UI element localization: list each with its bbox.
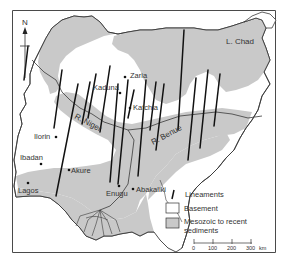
city-kaduna: Kaduna <box>93 83 120 92</box>
scale-bar: 0 100 200 300 km <box>192 239 267 251</box>
legend-sediments-label-1: Mesozoic to recent <box>184 217 248 226</box>
scale-unit: km <box>259 245 267 251</box>
scale-tick-100: 100 <box>208 245 217 251</box>
legend-sediments-swatch <box>166 218 179 228</box>
legend-lineaments-label: Lineaments <box>185 190 224 199</box>
scale-tick-0: 0 <box>192 245 195 251</box>
legend-basement-label: Basement <box>184 204 219 213</box>
north-label: N <box>22 18 28 27</box>
city-abakaliki: Abakaliki <box>136 185 166 194</box>
geological-map: N L. Chad R. Niger R. Benue Zaria Kaduna… <box>0 0 288 264</box>
city-ibadan: Ibadan <box>20 153 43 162</box>
lake-chad-label: L. Chad <box>226 37 254 46</box>
city-ilorin: Ilorin <box>34 132 50 141</box>
scale-tick-200: 200 <box>227 245 236 251</box>
legend-sediments-label-2: sediments <box>184 226 218 235</box>
city-akure: Akure <box>71 166 91 175</box>
legend-basement-swatch <box>166 203 179 213</box>
city-enugu: Enugu <box>106 189 128 198</box>
city-lagos: Lagos <box>18 186 39 195</box>
scale-tick-300: 300 <box>246 245 255 251</box>
city-zaria: Zaria <box>130 71 148 80</box>
city-katchia: Katchia <box>133 103 159 112</box>
